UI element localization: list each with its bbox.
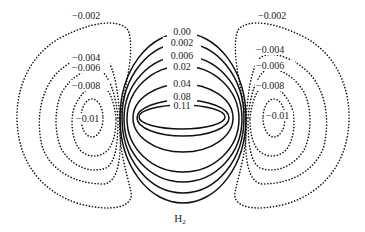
label-right-0.008: −0.008 — [256, 80, 284, 91]
negative-labels-right: −0.002 −0.004 −0.006 −0.008 −0.01 — [255, 10, 297, 121]
label-0.00: 0.00 — [173, 26, 191, 37]
label-left-0.01: −0.01 — [76, 113, 99, 124]
label-0.11: 0.11 — [173, 100, 190, 111]
label-left-0.008: −0.008 — [72, 80, 100, 91]
label-right-0.004: −0.004 — [256, 44, 284, 55]
molecule-symbol: H — [174, 212, 182, 224]
label-right-0.01: −0.01 — [266, 110, 289, 121]
label-0.04: 0.04 — [173, 78, 191, 89]
label-0.002: 0.002 — [171, 37, 194, 48]
negative-labels-left: −0.002 −0.004 −0.006 −0.008 −0.01 — [70, 10, 110, 124]
contour-plot: 0.00 0.002 0.006 0.02 0.04 0.08 0.11 −0.… — [0, 0, 365, 232]
label-right-0.006: −0.006 — [256, 60, 284, 71]
label-left-0.002: −0.002 — [72, 10, 100, 21]
label-right-0.002: −0.002 — [258, 10, 286, 21]
label-0.02: 0.02 — [173, 61, 191, 72]
molecule-label: H2 — [174, 212, 186, 226]
label-0.006: 0.006 — [171, 50, 194, 61]
molecule-subscript: 2 — [182, 218, 186, 226]
positive-labels: 0.00 0.002 0.006 0.02 0.04 0.08 0.11 — [163, 26, 201, 111]
label-left-0.006: −0.006 — [72, 62, 100, 73]
